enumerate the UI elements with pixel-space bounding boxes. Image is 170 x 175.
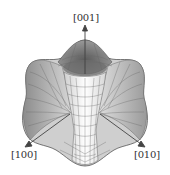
- arrow-010-icon: [138, 141, 145, 147]
- axis-label-100: [100]: [11, 150, 37, 160]
- axis-label-001: [001]: [73, 13, 99, 23]
- axis-label-010: [010]: [134, 150, 160, 160]
- arrow-001-icon: [83, 25, 88, 31]
- surface-figure: [001] [100] [010]: [0, 0, 170, 175]
- arrow-100-icon: [25, 141, 32, 147]
